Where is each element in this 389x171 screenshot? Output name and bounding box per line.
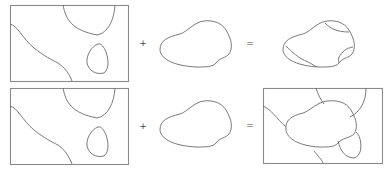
diagram-canvas: + = + = (0, 0, 389, 171)
row-2-result (263, 88, 383, 164)
result-region-left (286, 46, 317, 67)
map-region-left (10, 24, 72, 81)
result-blob (283, 21, 354, 67)
result-region-top (325, 23, 349, 32)
row-2-map (10, 88, 129, 165)
map-island (87, 44, 108, 74)
result-island (338, 132, 361, 158)
result-blob (286, 101, 357, 147)
shape-blob-1 (160, 21, 231, 67)
equals-operator-2: = (246, 120, 254, 130)
map-frame (11, 6, 129, 82)
equals-operator-1: = (246, 38, 254, 48)
map-region-left (10, 106, 72, 164)
map-region-top (63, 5, 115, 35)
map-island (87, 127, 108, 157)
plus-operator-2: + (139, 121, 147, 131)
result-region-bottom (314, 151, 323, 163)
map-region-top (63, 88, 115, 118)
row-1-result (283, 21, 354, 67)
result-region-left (263, 106, 286, 127)
plus-operator-1: + (139, 38, 147, 48)
map-frame (11, 89, 129, 165)
shape-blob-2 (160, 101, 231, 147)
row-1-map (10, 5, 129, 82)
